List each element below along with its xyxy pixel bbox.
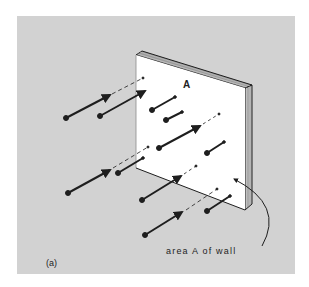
wall-area-label: A	[183, 79, 190, 90]
panel-label: (a)	[46, 258, 57, 268]
figure: A area A of wall (a)	[0, 0, 309, 287]
wall-diagram	[0, 0, 309, 287]
area-annotation: area A of wall	[166, 246, 236, 256]
wall	[136, 51, 252, 210]
